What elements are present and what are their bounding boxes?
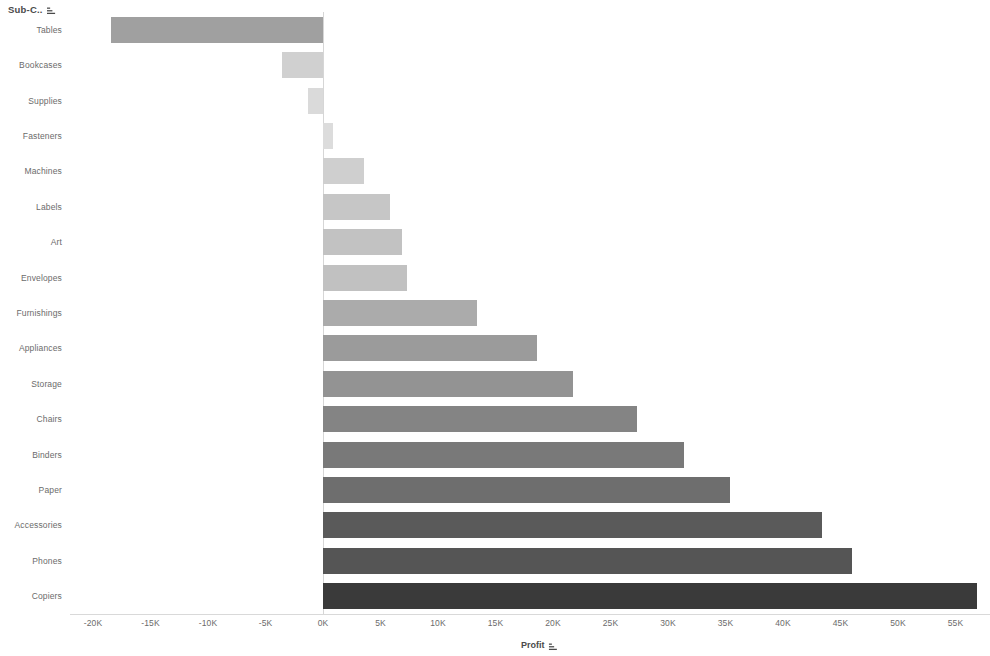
x-axis-tick-5k: 5K	[375, 618, 386, 628]
sort-ascending-icon[interactable]	[548, 642, 557, 651]
y-axis-label-art[interactable]: Art	[51, 237, 62, 247]
x-axis-tick-10k: 10K	[430, 618, 446, 628]
bar-chart-visualization: Sub-C.. TablesBookcasesSuppliesFasteners…	[0, 0, 990, 656]
y-axis-label-machines[interactable]: Machines	[24, 166, 62, 176]
y-axis-label-chairs[interactable]: Chairs	[37, 414, 62, 424]
bar-envelopes[interactable]	[323, 265, 407, 291]
y-axis-label-binders[interactable]: Binders	[32, 450, 62, 460]
y-axis-label-copiers[interactable]: Copiers	[32, 591, 62, 601]
x-axis-line	[70, 614, 990, 615]
y-axis-label-supplies[interactable]: Supplies	[28, 96, 62, 106]
bar-paper[interactable]	[323, 477, 730, 503]
x-axis-tick-15k: 15K	[488, 618, 504, 628]
x-axis-tick-20k: 20K	[545, 618, 561, 628]
y-axis-label-appliances[interactable]: Appliances	[19, 343, 62, 353]
bar-bookcases[interactable]	[282, 52, 323, 78]
x-axis-tick-55k: 55K	[948, 618, 964, 628]
x-axis-tick-30k: 30K	[660, 618, 676, 628]
y-axis-label-paper[interactable]: Paper	[39, 485, 62, 495]
y-axis-label-bookcases[interactable]: Bookcases	[19, 60, 62, 70]
x-axis-tick--20k: -20K	[84, 618, 103, 628]
x-axis-tick--10k: -10K	[199, 618, 218, 628]
x-axis-tick-35k: 35K	[718, 618, 734, 628]
x-axis-tick--15k: -15K	[141, 618, 160, 628]
y-axis-label-phones[interactable]: Phones	[32, 556, 62, 566]
bar-storage[interactable]	[323, 371, 573, 397]
bar-labels[interactable]	[323, 194, 390, 220]
bar-art[interactable]	[323, 229, 402, 255]
bar-tables[interactable]	[111, 17, 323, 43]
y-axis-label-furnishings[interactable]: Furnishings	[16, 308, 62, 318]
bar-copiers[interactable]	[323, 583, 977, 609]
x-axis-tick-45k: 45K	[833, 618, 849, 628]
x-axis-title[interactable]: Profit	[521, 640, 558, 650]
bar-supplies[interactable]	[308, 88, 323, 114]
bar-accessories[interactable]	[323, 512, 822, 538]
bar-appliances[interactable]	[323, 335, 537, 361]
y-axis-labels: TablesBookcasesSuppliesFastenersMachines…	[0, 12, 66, 614]
x-axis-title-label: Profit	[521, 640, 545, 650]
bar-binders[interactable]	[323, 442, 684, 468]
x-axis-tick-0k: 0K	[318, 618, 329, 628]
y-axis-label-storage[interactable]: Storage	[31, 379, 62, 389]
x-axis-tick-25k: 25K	[603, 618, 619, 628]
bar-phones[interactable]	[323, 548, 852, 574]
bar-furnishings[interactable]	[323, 300, 477, 326]
y-axis-label-envelopes[interactable]: Envelopes	[21, 273, 62, 283]
y-axis-label-tables[interactable]: Tables	[37, 25, 62, 35]
bar-chairs[interactable]	[323, 406, 637, 432]
x-axis-tick-50k: 50K	[890, 618, 906, 628]
plot-area	[70, 12, 990, 614]
bar-machines[interactable]	[323, 158, 364, 184]
y-axis-label-accessories[interactable]: Accessories	[15, 520, 62, 530]
y-axis-label-labels[interactable]: Labels	[36, 202, 62, 212]
bar-fasteners[interactable]	[323, 123, 333, 149]
x-axis-tick--5k: -5K	[259, 618, 273, 628]
y-axis-label-fasteners[interactable]: Fasteners	[23, 131, 62, 141]
x-axis-tick-40k: 40K	[775, 618, 791, 628]
